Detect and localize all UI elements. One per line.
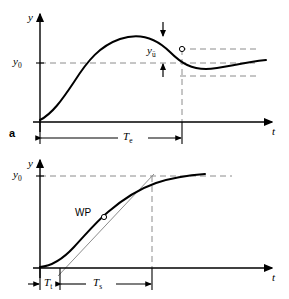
y0-label-a: y0 (13, 56, 22, 67)
panel-a: y y0 yü Te t a (0, 0, 289, 150)
inflection-point-label: WP (75, 208, 91, 218)
y-axis-label-a: y (28, 12, 33, 23)
settling-time-label: Te (123, 131, 132, 142)
panel-b: y y0 WP Tt Ts t b (0, 150, 289, 299)
panel-letter-a: a (9, 128, 15, 139)
t-axis-label-a: t (272, 126, 275, 137)
step-response-curve-b (40, 174, 205, 267)
inflection-point-marker (101, 214, 106, 219)
reference-lines-b (40, 176, 232, 268)
settling-time-dimension (40, 122, 182, 144)
panel-a-graphic (0, 0, 289, 150)
delay-time-label: Tt (44, 277, 52, 288)
settling-point-marker (179, 46, 184, 51)
t-axis-label-b: t (272, 272, 275, 283)
overshoot-label: yü (147, 45, 156, 56)
rise-time-label: Ts (93, 277, 102, 288)
y-axis-label-b: y (28, 158, 33, 169)
y0-label-b: y0 (13, 169, 22, 180)
